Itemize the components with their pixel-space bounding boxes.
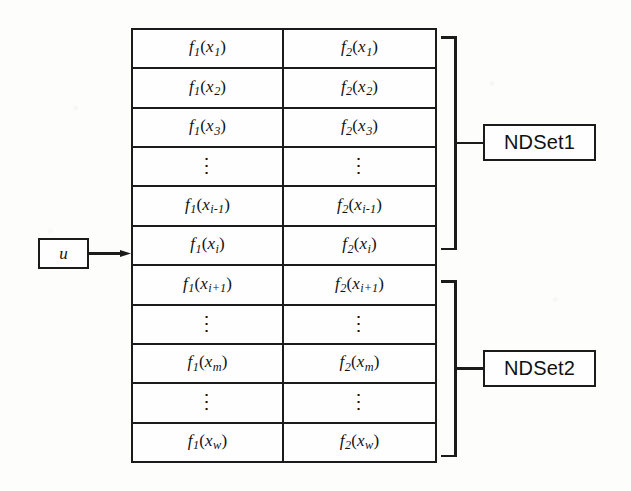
group-bracket-ndset2: [441, 280, 457, 457]
cell-f1: f1(x2): [133, 69, 284, 106]
cell-f1: f1(xi-1): [133, 187, 284, 224]
table-row: f1(xw) f2(xw): [133, 424, 435, 461]
table-row: f1(xi-1) f2(xi-1): [133, 187, 435, 226]
cell-f1: f1(x3): [133, 109, 284, 146]
cell-f2: f2(xi): [284, 227, 435, 264]
cell-f2: f2(xi+1): [284, 266, 435, 303]
cell-ellipsis: ⋮: [284, 306, 435, 343]
cell-ellipsis: ⋮: [133, 306, 284, 343]
cell-f1: f1(xi+1): [133, 266, 284, 303]
cell-ellipsis: ⋮: [284, 148, 435, 185]
cell-f2: f2(xw): [284, 424, 435, 461]
table-row-ellipsis: ⋮ ⋮: [133, 384, 435, 423]
cell-ellipsis: ⋮: [284, 384, 435, 421]
table-row: f1(xi) f2(xi): [133, 227, 435, 266]
table-row-ellipsis: ⋮ ⋮: [133, 148, 435, 187]
cell-f1: f1(xw): [133, 424, 284, 461]
cell-f1: f1(xi): [133, 227, 284, 264]
cell-f2: f2(x3): [284, 109, 435, 146]
set-label-ndset1: NDSet1: [483, 124, 596, 161]
insertion-arrow-icon: [89, 250, 133, 257]
input-node-label: u: [59, 244, 68, 264]
table-row: f1(x2) f2(x2): [133, 69, 435, 108]
cell-f2: f2(x2): [284, 69, 435, 106]
cell-ellipsis: ⋮: [133, 148, 284, 185]
group-bracket-ndset1: [441, 36, 457, 250]
table-row-ellipsis: ⋮ ⋮: [133, 306, 435, 345]
input-node-u: u: [38, 238, 89, 269]
table-row: f1(x1) f2(x1): [133, 30, 435, 69]
table-row: f1(xm) f2(xm): [133, 345, 435, 384]
bracket-cap-bottom: [441, 455, 456, 458]
cell-f2: f2(x1): [284, 30, 435, 67]
cell-f2: f2(xi-1): [284, 187, 435, 224]
cell-f2: f2(xm): [284, 345, 435, 382]
set-label-text: NDSet2: [504, 357, 575, 380]
cell-ellipsis: ⋮: [133, 384, 284, 421]
bracket-cap-bottom: [441, 248, 456, 251]
bracket-stem: [456, 367, 484, 370]
table-row: f1(x3) f2(x3): [133, 109, 435, 148]
set-label-text: NDSet1: [504, 131, 575, 154]
diagram-canvas: u f1(x1) f2(x1) f1(x2) f2(x2) f1(x3) f2(…: [0, 0, 631, 491]
cell-f1: f1(xm): [133, 345, 284, 382]
objective-value-table: f1(x1) f2(x1) f1(x2) f2(x2) f1(x3) f2(x3…: [131, 28, 437, 463]
bracket-stem: [456, 142, 484, 145]
set-label-ndset2: NDSet2: [483, 350, 596, 387]
table-row: f1(xi+1) f2(xi+1): [133, 266, 435, 305]
cell-f1: f1(x1): [133, 30, 284, 67]
